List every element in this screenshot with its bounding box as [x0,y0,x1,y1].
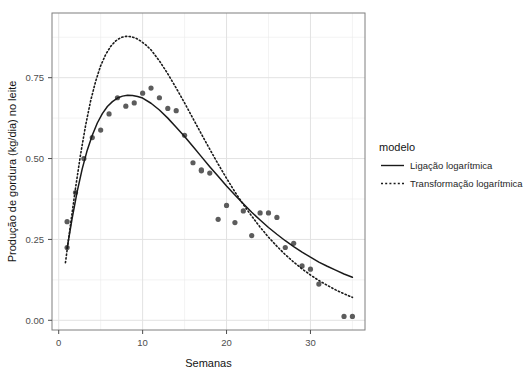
data-point [174,108,179,113]
data-point [308,267,313,272]
data-point [224,203,229,208]
data-point [241,208,246,213]
data-point [148,85,153,90]
data-point [249,233,254,238]
y-tick-label: 0.00 [26,315,45,326]
x-tick-label: 0 [56,337,61,348]
data-point [283,245,288,250]
data-point [98,128,103,133]
data-point [157,95,162,100]
legend-label[interactable]: Transformação logarítmica [410,178,523,189]
data-point [266,210,271,215]
y-tick-label: 0.50 [26,153,45,164]
x-tick-label: 10 [137,337,148,348]
x-tick-label: 20 [221,337,232,348]
data-point [258,210,263,215]
data-point [341,314,346,319]
legend-label[interactable]: Ligação logarítmica [410,160,493,171]
legend: modeloLigação logarítmicaTransformação l… [379,141,523,189]
y-axis-title: Produção de gordura (kg/dia) no leite [6,81,18,263]
data-point [207,171,212,176]
y-tick-label: 0.25 [26,234,45,245]
data-point [140,91,145,96]
data-point [123,104,128,109]
y-tick-label: 0.75 [26,72,45,83]
data-point [316,281,321,286]
chart-container: 01020300.000.250.500.75SemanasProdução d… [0,0,524,372]
data-point [190,160,195,165]
data-point [106,111,111,116]
data-point [350,314,355,319]
data-point [274,215,279,220]
data-point [65,219,70,224]
fat-production-chart: 01020300.000.250.500.75SemanasProdução d… [0,0,524,372]
data-point [132,100,137,105]
data-point [216,217,221,222]
x-tick-label: 30 [305,337,316,348]
data-point [199,168,204,173]
data-point [232,220,237,225]
data-point [165,106,170,111]
x-axis-title: Semanas [185,357,232,369]
legend-title: modelo [379,141,415,153]
